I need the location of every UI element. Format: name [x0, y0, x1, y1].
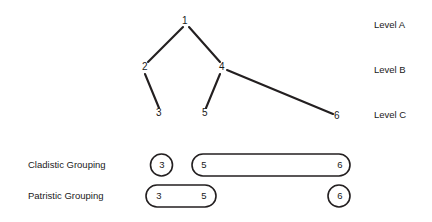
cladistic-member-3: 3 — [158, 160, 166, 170]
phylogenetic-tree-figure: 1 2 3 4 5 6 Level A Level B Level C Clad… — [0, 0, 432, 222]
cladistic-member-6: 6 — [336, 160, 344, 170]
cladistic-group-capsule-5-6 — [192, 154, 350, 176]
patristic-member-6: 6 — [336, 191, 344, 201]
grouping-label-patristic: Patristic Grouping — [28, 190, 104, 201]
patristic-member-5: 5 — [200, 191, 208, 201]
grouping-label-cladistic: Cladistic Grouping — [28, 159, 106, 170]
cladistic-member-5: 5 — [200, 160, 208, 170]
patristic-member-3: 3 — [155, 191, 163, 201]
grouping-shapes-svg — [0, 0, 432, 222]
